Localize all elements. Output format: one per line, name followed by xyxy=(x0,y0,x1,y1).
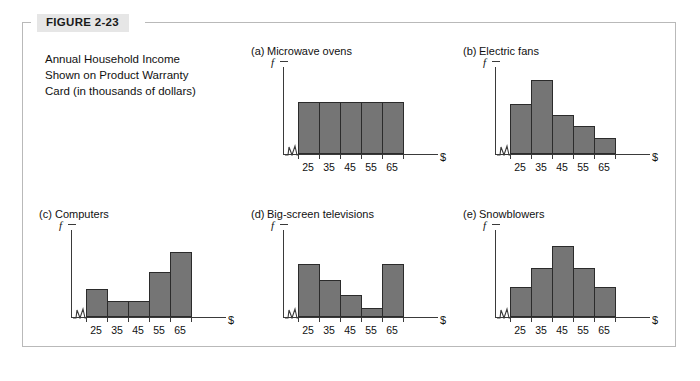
x-tick-label: 25 xyxy=(85,324,107,336)
x-tick-label: 35 xyxy=(106,324,128,336)
caption-line-1: Annual Household Income xyxy=(45,51,245,67)
x-tick-label: 45 xyxy=(127,324,149,336)
x-tick-labels-d: 2535455565 xyxy=(298,323,403,336)
chart-title-d: (d)Big-screen televisions xyxy=(251,208,374,220)
x-tick-label: 55 xyxy=(360,161,382,173)
caption-line-3: Card (in thousands of dollars) xyxy=(45,83,245,99)
panel-letter-a: (a) xyxy=(251,45,267,57)
bar-group-c xyxy=(86,231,191,317)
chart-panel-b: (b)Electric fans f 2535455565 $ xyxy=(463,45,663,180)
y-axis-a xyxy=(283,67,284,155)
x-tick-label: 25 xyxy=(509,324,531,336)
bar-group-e xyxy=(510,231,615,317)
x-tick-labels-a: 2535455565 xyxy=(298,160,403,173)
bar xyxy=(552,115,574,154)
x-tick-label: 65 xyxy=(593,161,615,173)
chart-panel-a: (a)Microwave ovens f 2535455565 $ xyxy=(251,45,451,180)
y-axis-cap-e xyxy=(492,224,500,225)
x-tick-label: 35 xyxy=(530,324,552,336)
figure-label-container: FIGURE 2-23 xyxy=(37,13,129,33)
y-axis-label-a: f xyxy=(271,57,274,67)
y-axis-cap-d xyxy=(280,224,288,225)
bar xyxy=(573,126,595,154)
chart-panel-e: (e)Snowblowers f 2535455565 $ xyxy=(463,208,663,343)
bar xyxy=(340,295,362,317)
bar xyxy=(531,80,553,154)
chart-title-c: (c)Computers xyxy=(39,208,109,220)
chart-title-text-a: Microwave ovens xyxy=(267,45,352,57)
y-axis-d xyxy=(283,230,284,318)
chart-title-text-b: Electric fans xyxy=(479,45,539,57)
bar xyxy=(86,289,108,317)
x-tick-label: 65 xyxy=(593,324,615,336)
x-tick-label: 45 xyxy=(339,324,361,336)
bar-group-d xyxy=(298,231,403,317)
bar xyxy=(382,264,404,317)
panel-letter-b: (b) xyxy=(463,45,479,57)
x-tick-label: 35 xyxy=(318,161,340,173)
x-tick-label: 45 xyxy=(339,161,361,173)
chart-title-b: (b)Electric fans xyxy=(463,45,539,57)
caption-line-2: Shown on Product Warranty xyxy=(45,67,245,83)
x-axis-unit-a: $ xyxy=(440,151,446,163)
panel-letter-d: (d) xyxy=(251,208,267,220)
bar-group-b xyxy=(510,68,615,154)
chart-panel-d: (d)Big-screen televisions f 2535455565 $ xyxy=(251,208,451,343)
x-tick-label: 45 xyxy=(551,324,573,336)
y-axis-label-d: f xyxy=(271,220,274,230)
bar xyxy=(340,102,362,154)
chart-title-text-c: Computers xyxy=(55,208,109,220)
x-axis-unit-b: $ xyxy=(652,151,658,163)
plot-area-a: f 2535455565 $ xyxy=(269,61,444,173)
x-tick-label: 65 xyxy=(381,161,403,173)
plot-area-d: f 2535455565 $ xyxy=(269,224,444,336)
bar xyxy=(361,102,383,154)
x-tick-label: 45 xyxy=(551,161,573,173)
chart-panel-c: (c)Computers f 2535455565 $ xyxy=(39,208,239,343)
bar xyxy=(531,268,553,317)
x-axis-unit-d: $ xyxy=(440,314,446,326)
x-axis-unit-e: $ xyxy=(652,314,658,326)
x-axis-unit-c: $ xyxy=(228,314,234,326)
bar xyxy=(594,138,616,154)
bar xyxy=(298,264,320,317)
figure-caption: Annual Household Income Shown on Product… xyxy=(45,51,245,99)
bar xyxy=(149,272,171,317)
x-tick-label: 65 xyxy=(381,324,403,336)
y-axis-label-b: f xyxy=(483,57,486,67)
bar xyxy=(361,308,383,317)
bar xyxy=(510,287,532,317)
x-tick-label: 55 xyxy=(148,324,170,336)
x-tick-label: 25 xyxy=(297,161,319,173)
plot-area-c: f 2535455565 $ xyxy=(57,224,232,336)
panel-letter-e: (e) xyxy=(463,208,479,220)
bar xyxy=(594,287,616,317)
plot-area-e: f 2535455565 $ xyxy=(481,224,656,336)
bar xyxy=(382,102,404,154)
x-tick-labels-e: 2535455565 xyxy=(510,323,615,336)
x-tick-label: 55 xyxy=(360,324,382,336)
bar xyxy=(510,104,532,154)
chart-title-text-d: Big-screen televisions xyxy=(267,208,374,220)
bar xyxy=(573,268,595,317)
y-axis-cap-b xyxy=(492,61,500,62)
bar xyxy=(107,301,129,317)
bar xyxy=(170,252,192,317)
y-axis-e xyxy=(495,230,496,318)
figure-frame: FIGURE 2-23 Annual Household Income Show… xyxy=(22,22,676,347)
chart-title-e: (e)Snowblowers xyxy=(463,208,544,220)
bar xyxy=(298,102,320,154)
y-axis-b xyxy=(495,67,496,155)
chart-title-a: (a)Microwave ovens xyxy=(251,45,352,57)
y-axis-label-c: f xyxy=(59,220,62,230)
bar xyxy=(319,102,341,154)
y-axis-label-e: f xyxy=(483,220,486,230)
x-tick-label: 25 xyxy=(297,324,319,336)
y-axis-cap-c xyxy=(68,224,76,225)
bar-group-a xyxy=(298,68,403,154)
x-tick-label: 35 xyxy=(530,161,552,173)
x-tick-label: 35 xyxy=(318,324,340,336)
x-tick-label: 55 xyxy=(572,161,594,173)
y-axis-cap-a xyxy=(280,61,288,62)
plot-area-b: f 2535455565 $ xyxy=(481,61,656,173)
